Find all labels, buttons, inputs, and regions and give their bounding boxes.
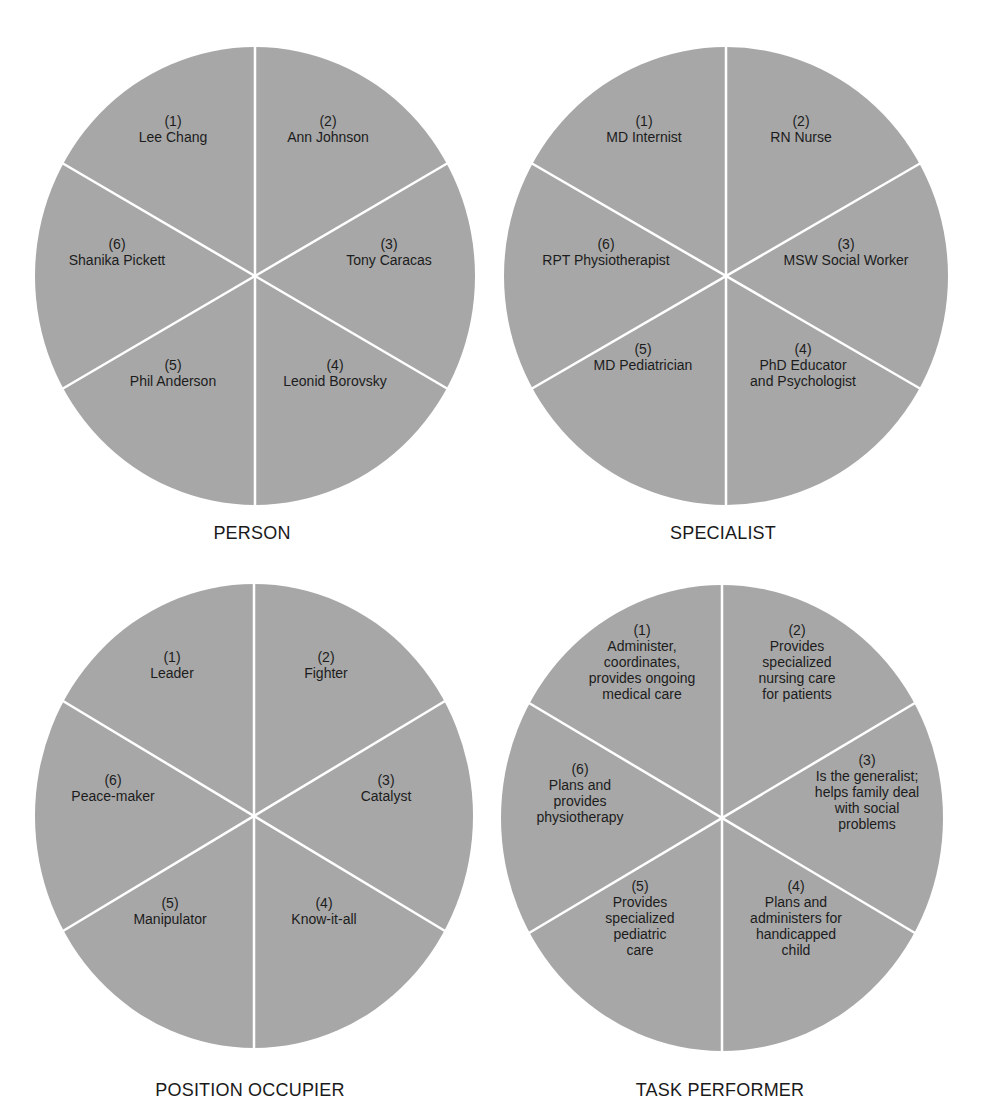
- segment-label: (4)Plans andadministers forhandicappedch…: [750, 878, 842, 958]
- segment-label: (1)Administer,coordinates,provides ongoi…: [589, 622, 696, 702]
- segment-label: (6)Plans andprovidesphysiotherapy: [536, 761, 623, 825]
- segment-label: (2)Providesspecializednursing carefor pa…: [758, 622, 835, 702]
- segment-label: (5)Providesspecializedpediatriccare: [605, 878, 674, 958]
- diagram-caption: TASK PERFORMER: [636, 1080, 804, 1101]
- segment-label: (3)Is the generalist;helps family dealwi…: [815, 752, 919, 832]
